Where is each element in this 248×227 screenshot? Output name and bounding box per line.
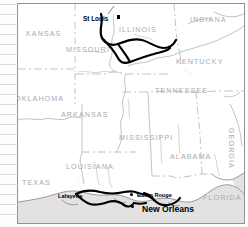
map-screenshot: KANSASMISSOURIILLINOISINDIANAKENTUCKYOKL… (0, 0, 248, 227)
page-rule-line (0, 154, 19, 155)
city-marker-baton-rouge (130, 193, 133, 196)
state-label-kansas: KANSAS (26, 30, 61, 37)
page-rule-line (0, 204, 19, 205)
page-rule-line (0, 214, 19, 215)
page-rule-line (0, 74, 19, 75)
state-label-arkansas: ARKANSAS (61, 111, 109, 118)
state-label-louisiana: LOUISIANA (66, 163, 114, 170)
page-rule-line (0, 84, 19, 85)
page-rule-line (0, 164, 19, 165)
state-label-georgia: GEORGIA (228, 128, 235, 169)
city-marker-new-orleans (131, 205, 134, 208)
page-rule-line (0, 24, 19, 25)
page-rule-line (0, 34, 19, 35)
page-rule-line (0, 94, 19, 95)
page-ruled-lines (0, 0, 19, 227)
page-rule-line (0, 64, 19, 65)
page-rule-line (0, 114, 19, 115)
page-rule-line (0, 104, 19, 105)
state-label-illinois: ILLINOIS (119, 26, 157, 33)
city-label-new-orleans: New Orleans (142, 205, 194, 214)
state-label-missouri: MISSOURI (66, 46, 110, 53)
state-label-texas: TEXAS (22, 179, 51, 186)
state-label-indiana: INDIANA (190, 16, 227, 23)
page-rule-line (0, 54, 19, 55)
map-plate: KANSASMISSOURIILLINOISINDIANAKENTUCKYOKL… (17, 3, 245, 224)
city-label-st-louis: St Louis (83, 16, 108, 22)
state-label-mississippi: MISSISSIPPI (119, 134, 173, 141)
state-label-oklahoma: OKLAHOMA (17, 95, 64, 102)
city-label-baton-rouge: Baton Rouge (137, 193, 172, 199)
st-louis-leader (108, 6, 114, 14)
state-label-florida: FLORIDA (203, 194, 242, 201)
page-rule-line (0, 14, 19, 15)
page-rule-line (0, 184, 19, 185)
city-marker-st-louis (117, 15, 120, 19)
page-rule-line (0, 124, 19, 125)
state-label-kentucky: KENTUCKY (176, 58, 224, 65)
page-rule-line (0, 4, 19, 5)
page-rule-line (0, 174, 19, 175)
state-label-tennessee: TENNESSEE (155, 87, 208, 94)
state-label-alabama: ALABAMA (170, 153, 211, 160)
city-label-lafayette: Lafayette (58, 194, 83, 200)
page-rule-line (0, 44, 19, 45)
page-rule-line (0, 194, 19, 195)
page-rule-line (0, 134, 19, 135)
page-rule-line (0, 144, 19, 145)
